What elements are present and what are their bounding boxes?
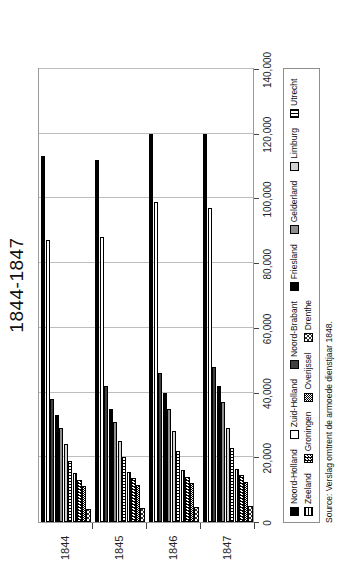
- bar-zuid-holland-1845: [100, 237, 104, 522]
- y-axis-category-label-1845: 1845: [113, 536, 125, 560]
- bar-friesland-1847: [217, 386, 221, 522]
- legend-label: Overijssel: [303, 352, 313, 389]
- x-axis-tick: [254, 134, 259, 135]
- legend-item-drenthe[interactable]: Drenthe: [303, 300, 313, 342]
- bar-groningen-1845: [131, 478, 135, 522]
- legend-label: Zeeland: [303, 473, 313, 504]
- legend-swatch-icon: [304, 507, 313, 516]
- legend-item-noord-holland[interactable]: Noord-Holland: [289, 449, 299, 516]
- bar-zuid-holland-1844: [46, 241, 50, 523]
- x-axis-tick: [254, 69, 259, 70]
- bar-noord-holland-1847: [203, 134, 207, 522]
- y-axis-category-label-1844: 1844: [59, 536, 71, 560]
- bar-utrecht-1844: [68, 461, 72, 522]
- legend-swatch-icon: [304, 393, 313, 402]
- chart-stage: 1844-1847 020,00040,00060,00080,000100,0…: [0, 0, 338, 570]
- bar-gelderland-1845: [113, 422, 117, 522]
- bar-drenthe-1846: [194, 507, 198, 522]
- legend-item-zeeland[interactable]: Zeeland: [303, 473, 313, 516]
- legend-label: Utrecht: [289, 79, 299, 106]
- plot-area: [38, 68, 254, 523]
- bar-friesland-1846: [163, 393, 167, 522]
- bar-noord-holland-1844: [41, 156, 45, 522]
- bar-limburg-1847: [226, 428, 230, 522]
- bar-limburg-1845: [118, 441, 122, 522]
- bars-layer: [39, 69, 253, 522]
- bar-utrecht-1846: [176, 451, 180, 522]
- bar-gelderland-1846: [167, 409, 171, 522]
- bar-overijssel-1847: [244, 482, 248, 522]
- legend-item-utrecht[interactable]: Utrecht: [289, 79, 299, 118]
- x-axis-tick: [254, 198, 259, 199]
- x-axis-tick: [254, 457, 259, 458]
- legend-item-groningen[interactable]: Groningen: [303, 412, 313, 464]
- x-axis-tick: [254, 263, 259, 264]
- legend-label: Gelderland: [289, 181, 299, 223]
- legend-swatch-icon: [290, 109, 299, 118]
- legend-row: Noord-HollandZuid-HollandNoord-BrabantFr…: [289, 75, 299, 516]
- x-axis-tick: [254, 393, 259, 394]
- bar-zuid-holland-1847: [208, 208, 212, 522]
- legend-label: Groningen: [303, 412, 313, 452]
- legend-item-gelderland[interactable]: Gelderland: [289, 181, 299, 235]
- legend-label: Friesland: [289, 244, 299, 279]
- legend-swatch-icon: [304, 333, 313, 342]
- bar-zeeland-1847: [235, 469, 239, 522]
- bar-friesland-1844: [55, 415, 59, 522]
- x-axis-tick-label: 120,000: [262, 117, 273, 153]
- bar-overijssel-1846: [190, 483, 194, 522]
- bar-noord-brabant-1845: [104, 386, 108, 522]
- x-axis-tick-label: 40,000: [262, 378, 273, 409]
- y-axis-tick: [92, 523, 93, 529]
- source-note: Source: Verslag omtrent de armoede diens…: [324, 321, 334, 523]
- legend-swatch-icon: [290, 507, 299, 516]
- bar-groningen-1846: [185, 477, 189, 522]
- bar-limburg-1844: [64, 444, 68, 522]
- legend-item-noord-brabant[interactable]: Noord-Brabant: [289, 301, 299, 369]
- legend-item-zuid-holland[interactable]: Zuid-Holland: [289, 379, 299, 439]
- x-axis-tick-label: 140,000: [262, 52, 273, 88]
- bar-drenthe-1847: [248, 506, 252, 522]
- x-axis-tick-label: 60,000: [262, 314, 273, 345]
- bar-drenthe-1845: [140, 508, 144, 522]
- bar-zeeland-1846: [181, 470, 185, 522]
- legend-label: Zuid-Holland: [289, 379, 299, 427]
- year-group-1847: [201, 69, 255, 522]
- legend-label: Noord-Brabant: [289, 301, 299, 357]
- bar-overijssel-1844: [82, 486, 86, 522]
- legend-item-overijssel[interactable]: Overijssel: [303, 352, 313, 401]
- y-axis-tick: [200, 523, 201, 529]
- x-axis-tick: [254, 328, 259, 329]
- bar-zeeland-1844: [73, 473, 77, 522]
- legend-swatch-icon: [290, 162, 299, 171]
- bar-groningen-1844: [77, 480, 81, 522]
- y-axis-category-label-1847: 1847: [221, 536, 233, 560]
- x-axis-tick-label: 80,000: [262, 249, 273, 280]
- legend-item-friesland[interactable]: Friesland: [289, 244, 299, 291]
- bar-zuid-holland-1846: [154, 202, 158, 522]
- bar-friesland-1845: [109, 409, 113, 522]
- x-axis: 020,00040,00060,00080,000100,000120,0001…: [254, 68, 255, 523]
- legend-row: ZeelandGroningenOverijsselDrenthe: [303, 75, 313, 516]
- legend-swatch-icon: [304, 454, 313, 463]
- y-axis-category-label-1846: 1846: [167, 536, 179, 560]
- y-axis-tick: [146, 523, 147, 529]
- bar-drenthe-1844: [86, 509, 90, 522]
- bar-utrecht-1847: [230, 448, 234, 522]
- bar-gelderland-1847: [221, 402, 225, 522]
- bar-noord-brabant-1844: [50, 399, 54, 522]
- legend-label: Drenthe: [303, 300, 313, 330]
- year-group-1846: [147, 69, 201, 522]
- legend-item-limburg[interactable]: Limburg: [289, 128, 299, 171]
- x-axis-tick-label: 0: [262, 520, 273, 526]
- legend-swatch-icon: [290, 360, 299, 369]
- bar-gelderland-1844: [59, 428, 63, 522]
- chart-title: 1844-1847: [6, 0, 28, 570]
- legend-swatch-icon: [290, 282, 299, 291]
- bar-noord-holland-1845: [95, 160, 99, 522]
- bar-groningen-1847: [239, 475, 243, 522]
- x-axis-tick-label: 20,000: [262, 443, 273, 474]
- bar-utrecht-1845: [122, 457, 126, 522]
- bar-noord-holland-1846: [149, 134, 153, 522]
- year-group-1844: [39, 69, 93, 522]
